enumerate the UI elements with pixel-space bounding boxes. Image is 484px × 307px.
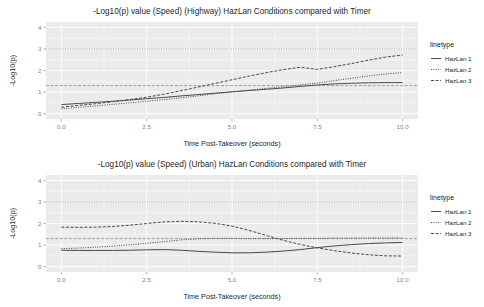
legend-item-label: HazLan 3	[445, 77, 472, 84]
y-tick-label: 0	[38, 110, 42, 117]
legend-item[interactable]: HazLan 1	[431, 208, 472, 215]
legend-item[interactable]: HazLan 3	[431, 77, 472, 84]
chart-svg-urban: -Log10(p) value (Speed) (Urban) HazLan C…	[0, 153, 484, 306]
chart-panel-highway: -Log10(p) value (Speed) (Highway) HazLan…	[0, 0, 484, 153]
y-tick-label: 2	[38, 67, 42, 74]
chart-page: -Log10(p) value (Speed) (Highway) HazLan…	[0, 0, 484, 307]
x-tick-label: 2.5	[142, 123, 151, 130]
legend-title: linetype	[430, 41, 454, 49]
x-axis-title: Time Post-Takeover (seconds)	[183, 292, 280, 301]
y-axis-title: -Log10(p)	[8, 208, 17, 239]
x-tick-label: 0.0	[57, 276, 66, 283]
y-tick-label: 3	[38, 45, 42, 52]
y-tick-label: 1	[38, 241, 42, 248]
x-tick-label: 2.5	[142, 276, 151, 283]
legend-item[interactable]: HazLan 2	[431, 66, 472, 73]
y-axis-title: -Log10(p)	[8, 55, 17, 86]
x-tick-label: 10.0	[397, 123, 410, 130]
legend-title: linetype	[430, 194, 454, 202]
y-tick-label: 4	[38, 24, 42, 31]
y-tick-label: 0	[38, 263, 42, 270]
legend-item-label: HazLan 1	[445, 55, 472, 62]
legend-item-label: HazLan 1	[445, 208, 472, 215]
legend-item[interactable]: HazLan 2	[431, 219, 472, 226]
y-tick-label: 2	[38, 220, 42, 227]
x-tick-label: 10.0	[397, 276, 410, 283]
chart-svg-highway: -Log10(p) value (Speed) (Highway) HazLan…	[0, 0, 484, 153]
chart-panel-urban: -Log10(p) value (Speed) (Urban) HazLan C…	[0, 153, 484, 306]
y-tick-label: 3	[38, 198, 42, 205]
x-tick-label: 7.5	[313, 276, 322, 283]
legend-item-label: HazLan 3	[445, 230, 472, 237]
x-tick-label: 5.0	[228, 276, 237, 283]
legend-item-label: HazLan 2	[445, 66, 472, 73]
x-tick-label: 0.0	[57, 123, 66, 130]
x-tick-label: 7.5	[313, 123, 322, 130]
chart-title: -Log10(p) value (Speed) (Highway) HazLan…	[93, 7, 371, 16]
legend-item-label: HazLan 2	[445, 219, 472, 226]
legend-item[interactable]: HazLan 3	[431, 230, 472, 237]
x-tick-label: 5.0	[228, 123, 237, 130]
y-tick-label: 4	[38, 177, 42, 184]
chart-title: -Log10(p) value (Speed) (Urban) HazLan C…	[98, 160, 367, 169]
x-axis-title: Time Post-Takeover (seconds)	[183, 139, 280, 148]
legend-item[interactable]: HazLan 1	[431, 55, 472, 62]
y-tick-label: 1	[38, 88, 42, 95]
